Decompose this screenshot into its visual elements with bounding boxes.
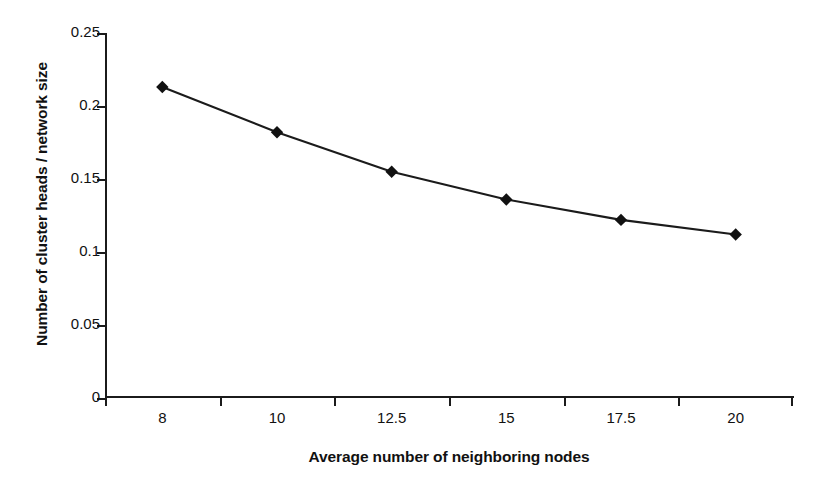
plot-area: 00.050.10.150.20.25 81012.51517.520 [105, 33, 793, 397]
series-markers [156, 81, 742, 241]
x-axis-title: Average number of neighboring nodes [105, 448, 793, 466]
x-tick-mark [449, 398, 451, 406]
y-tick-label: 0.25 [71, 23, 100, 40]
x-tick-label: 10 [269, 409, 286, 426]
x-tick-mark [105, 398, 107, 406]
x-tick-label: 12.5 [377, 409, 406, 426]
x-tick-label: 20 [727, 409, 744, 426]
data-point-marker [729, 228, 741, 240]
y-tick-label: 0.15 [71, 169, 100, 186]
y-axis-title: Number of cluster heads / network size [28, 4, 56, 404]
y-tick-label: 0.1 [79, 242, 100, 259]
x-tick-mark [564, 398, 566, 406]
series-line [162, 87, 735, 234]
x-tick-label: 8 [158, 409, 166, 426]
x-tick-label: 15 [498, 409, 515, 426]
data-point-marker [615, 214, 627, 226]
data-point-marker [385, 166, 397, 178]
data-point-marker [156, 81, 168, 93]
data-point-marker [500, 193, 512, 205]
data-series [105, 33, 793, 398]
y-tick-label: 0.2 [79, 96, 100, 113]
y-tick-label: 0 [92, 388, 100, 405]
x-tick-mark [220, 398, 222, 406]
data-point-marker [271, 126, 283, 138]
x-tick-mark [791, 398, 793, 406]
x-tick-mark [678, 398, 680, 406]
chart-figure: Number of cluster heads / network size 0… [0, 0, 816, 494]
x-tick-label: 17.5 [606, 409, 635, 426]
y-tick-label: 0.05 [71, 315, 100, 332]
x-tick-mark [334, 398, 336, 406]
